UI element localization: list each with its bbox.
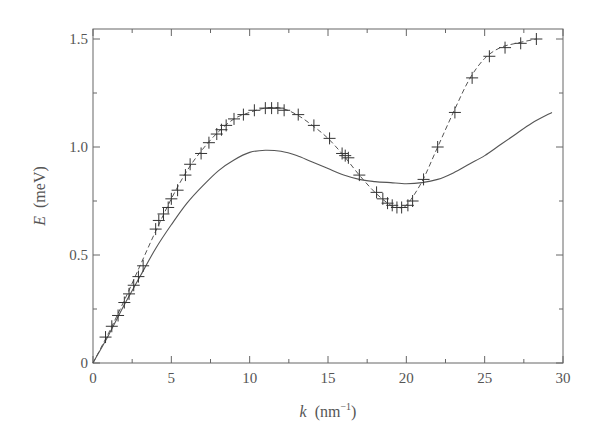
data-point-marker [324,132,336,144]
theoretical-curve [93,112,552,363]
x-tick-label: 25 [477,370,492,386]
data-point-marker [195,147,207,159]
x-tick-label: 0 [89,370,97,386]
data-point-marker [165,193,177,205]
data-markers [100,33,543,343]
x-axis-label: k (nm−1) [300,401,357,421]
x-tick-label: 10 [242,370,257,386]
data-point-marker [449,106,461,118]
data-point-marker [106,320,118,332]
data-point-marker [339,150,351,162]
data-point-marker [248,104,260,116]
y-tick-label: 0 [81,355,89,371]
y-tick-label: 1.5 [69,31,88,47]
minor-ticks [93,29,563,363]
data-point-marker [292,109,304,121]
data-point-marker [530,33,542,45]
y-tick-label: 0.5 [69,247,88,263]
x-tick-labels: 051015202530 [89,370,570,386]
y-tick-label: 1.0 [69,139,88,155]
dispersion-chart: 051015202530 00.51.01.5 k (nm−1) E (meV) [0,0,593,440]
x-tick-label: 30 [556,370,571,386]
data-point-marker [515,37,527,49]
x-tick-label: 15 [321,370,336,386]
y-tick-labels: 00.51.01.5 [69,31,88,371]
data-point-marker [112,309,124,321]
x-tick-label: 20 [399,370,414,386]
data-point-marker [179,169,191,181]
data-point-marker [150,223,162,235]
data-point-marker [418,173,430,185]
data-point-marker [272,102,284,114]
data-point-marker [137,260,149,272]
data-point-marker [483,50,495,62]
major-ticks [93,29,563,363]
data-point-marker [432,141,444,153]
data-point-marker [371,186,383,198]
data-point-marker [118,297,130,309]
y-axis-label: E (meV) [31,166,49,227]
data-point-marker [499,42,511,54]
plot-frame [93,29,563,363]
dashed-fit-curve [93,39,536,363]
x-tick-label: 5 [168,370,176,386]
data-point-marker [278,104,290,116]
